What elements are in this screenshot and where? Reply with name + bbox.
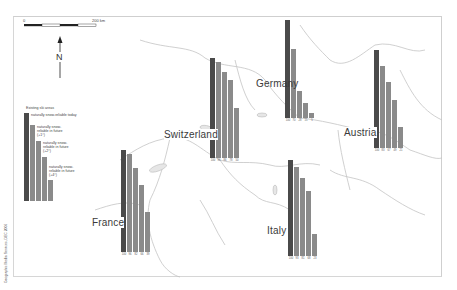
bar [216, 62, 221, 158]
legend-bar-plus1 [36, 141, 41, 201]
ticks-germany: 1007028155 [285, 119, 315, 122]
bars-germany [285, 20, 315, 118]
legend-label-plus1: naturally snow-reliable in future (+1°) [37, 125, 67, 138]
bar [386, 82, 391, 148]
legend-label-plus2: naturally snow-reliable in future (+2°) [43, 141, 73, 154]
ticks-austria: 10083674921 [374, 149, 404, 152]
bar [234, 108, 239, 158]
bar [294, 167, 299, 256]
legend-bar-plus4 [48, 180, 53, 201]
bars-italy [288, 160, 318, 256]
ticks-switzerland: 10096867850 [210, 159, 240, 162]
ticks-france: 10096826639 [121, 253, 151, 256]
bar [139, 185, 144, 252]
legend-label-today: naturally snow-reliable today [31, 113, 77, 117]
north-label: N [56, 52, 63, 62]
country-label-switzerland: Switzerland [164, 129, 218, 140]
bars-switzerland [210, 58, 240, 158]
bar [145, 212, 150, 252]
map-credit: Geographic Media Services, DEC 2006 [4, 224, 8, 283]
bars-austria [374, 50, 404, 148]
legend-bar-plus2 [42, 157, 47, 201]
bar [222, 72, 227, 158]
legend-bar-today [30, 125, 35, 201]
scale-start-label: 0 [23, 18, 25, 23]
country-label-italy: Italy [267, 225, 286, 236]
bar [398, 127, 403, 148]
bar [303, 103, 308, 118]
bar [297, 91, 302, 118]
scale-bar [24, 24, 96, 26]
country-label-germany: Germany [256, 78, 299, 89]
bars-france [121, 150, 151, 252]
bar [300, 178, 305, 256]
bar [306, 191, 311, 256]
bar [133, 168, 138, 252]
bar [392, 100, 397, 148]
bar [285, 20, 290, 118]
legend-label-existing: Existing ski areas [26, 106, 54, 110]
ticks-italy: 10093816823 [288, 257, 318, 260]
legend-bar-existing [24, 113, 29, 201]
bar [309, 113, 314, 118]
country-label-austria: Austria [344, 127, 377, 138]
bar [127, 154, 132, 252]
scale-end-label: 200 km [92, 18, 105, 23]
country-label-france: France [92, 217, 124, 228]
bar [210, 58, 215, 158]
bar [228, 80, 233, 158]
bar [312, 234, 317, 256]
bar [121, 150, 126, 252]
bar [288, 160, 293, 256]
bar [380, 66, 385, 148]
legend-label-plus4: naturally snow-reliable in future (+4°) [49, 165, 79, 178]
